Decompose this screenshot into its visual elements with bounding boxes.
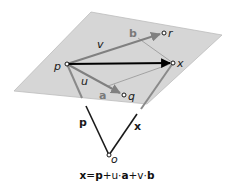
label-point-o: o — [111, 153, 118, 166]
formula-plus-u: +u· — [103, 169, 122, 181]
formula-a: a — [121, 169, 128, 181]
label-scalar-u: u — [81, 75, 88, 88]
formula-b: b — [147, 169, 155, 181]
plane-vector-diagram: p r x q o v b u a p x x=p+u·a+v·b — [0, 0, 234, 188]
formula-plus-v: +v· — [129, 169, 147, 181]
label-point-p: p — [53, 60, 61, 73]
point-x — [171, 61, 175, 65]
label-vector-a: a — [99, 89, 106, 102]
point-q — [122, 93, 126, 97]
position-vector-p — [86, 106, 109, 155]
label-point-x: x — [176, 57, 184, 70]
vector-p-to-x-arrow — [67, 63, 170, 64]
point-p — [65, 62, 69, 66]
formula: x=p+u·a+v·b — [80, 169, 155, 181]
label-vector-b: b — [129, 27, 137, 40]
label-scalar-v: v — [97, 38, 104, 51]
position-vector-x — [109, 114, 137, 155]
point-r — [162, 31, 166, 35]
formula-eq: = — [86, 169, 95, 181]
plane — [14, 12, 222, 104]
label-point-q: q — [128, 90, 135, 103]
label-vector-x: x — [134, 120, 141, 133]
label-vector-p: p — [79, 116, 87, 129]
